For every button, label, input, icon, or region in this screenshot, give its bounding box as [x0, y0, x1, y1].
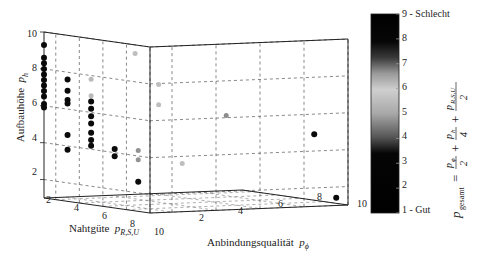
data-point	[41, 105, 47, 111]
cb-tick-6: 6	[402, 81, 407, 92]
data-point	[112, 146, 118, 152]
cb-tick-2: 2	[402, 179, 407, 190]
data-point	[41, 66, 47, 72]
z-tick-4: 4	[32, 132, 37, 143]
data-point	[41, 88, 47, 94]
y-tick-8: 8	[317, 191, 322, 202]
data-point	[136, 148, 141, 153]
data-point	[41, 82, 47, 88]
data-points	[41, 42, 339, 201]
x-axis-title: Nahtgüte pR,S,U	[69, 222, 139, 237]
x-tick-10: 10	[154, 226, 164, 237]
data-point	[88, 130, 94, 136]
cb-tick-8: 8	[402, 32, 407, 43]
y-tick-2: 2	[199, 212, 204, 223]
svg-text:=: =	[448, 175, 463, 182]
data-point	[89, 93, 94, 98]
colorbar	[371, 14, 399, 213]
data-point	[41, 94, 47, 100]
data-point	[136, 157, 141, 162]
svg-text:p: p	[443, 134, 454, 140]
cb-tick-4: 4	[402, 130, 407, 141]
data-point	[65, 88, 71, 94]
data-point	[65, 147, 71, 153]
x-tick-2: 2	[46, 194, 51, 205]
data-point	[41, 77, 47, 83]
cb-tick-5: 5	[402, 106, 407, 117]
svg-text:gesamt: gesamt	[457, 187, 466, 210]
data-point	[88, 106, 94, 112]
z-tick-8: 8	[32, 62, 37, 73]
x-tick-6: 6	[102, 210, 107, 221]
z-tick-6: 6	[32, 97, 37, 108]
svg-text:p: p	[443, 163, 454, 169]
data-point	[180, 161, 185, 166]
data-point	[41, 60, 47, 66]
cb-tick-9: 9 - Schlecht	[402, 8, 450, 19]
data-point	[41, 71, 47, 77]
svg-text:p: p	[448, 211, 463, 219]
cb-tick-7: 7	[402, 57, 407, 68]
data-point	[88, 137, 94, 143]
data-point	[65, 132, 71, 138]
plot-box	[40, 32, 348, 213]
y-tick-4: 4	[238, 205, 243, 216]
cb-tick-3: 3	[402, 155, 407, 166]
data-point	[135, 179, 141, 185]
svg-text:4: 4	[458, 132, 469, 137]
y-axis-title: Anbindungsqualität pϕ	[207, 236, 309, 251]
svg-text:p: p	[443, 105, 454, 111]
svg-text:+: +	[448, 116, 463, 123]
data-point	[88, 143, 94, 149]
data-point	[65, 101, 71, 107]
data-point	[89, 77, 94, 82]
data-point	[156, 102, 161, 107]
data-point	[88, 98, 94, 104]
data-point	[224, 113, 229, 118]
z-axis-title: Aufbauhöhe ph	[14, 58, 29, 158]
data-point	[88, 121, 94, 127]
data-point	[88, 113, 94, 119]
z-tick-2: 2	[32, 166, 37, 177]
data-point	[41, 42, 47, 48]
svg-text:2: 2	[458, 161, 469, 166]
data-point	[112, 153, 118, 159]
scatter-3d-plot	[0, 0, 481, 258]
data-point	[133, 51, 138, 56]
x-tick-4: 4	[74, 202, 79, 213]
z-tick-10: 10	[27, 28, 37, 39]
y-tick-6: 6	[278, 198, 283, 209]
data-point	[333, 195, 339, 201]
svg-text:+: +	[448, 145, 463, 152]
data-point	[65, 77, 71, 83]
data-point	[156, 82, 161, 87]
svg-text:2: 2	[458, 95, 469, 100]
data-point	[41, 55, 47, 61]
data-point	[311, 131, 317, 137]
y-tick-10: 10	[357, 198, 367, 209]
colorbar-formula: p gesamt = pϕ 2 + ph 4 + pR,S,U 2	[418, 40, 478, 220]
